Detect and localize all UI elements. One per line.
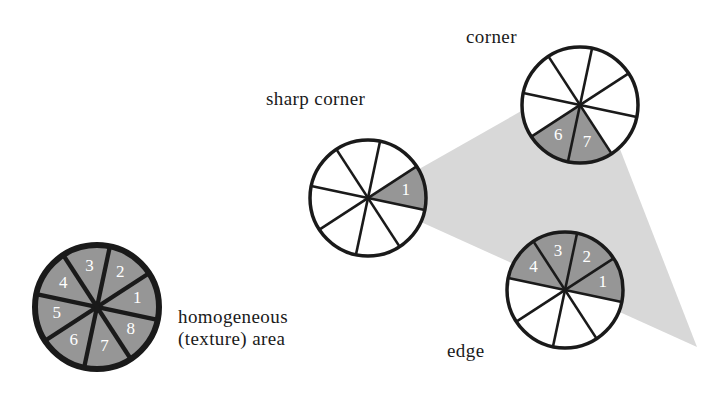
circle-corner: 67 (522, 47, 638, 163)
sector-number-1: 1 (133, 288, 142, 307)
sector-number-4: 4 (59, 273, 68, 292)
sector-number-2: 2 (116, 262, 125, 281)
circle-edge: 1234 (507, 232, 623, 348)
sector-number-4: 4 (529, 257, 538, 276)
sector-number-8: 8 (126, 319, 135, 338)
diagram-canvas: 123456781671234 (0, 0, 721, 399)
sector-number-6: 6 (70, 330, 79, 349)
label-homogeneous-texture-area: homogeneous(texture) area (178, 306, 288, 350)
sector-number-3: 3 (85, 256, 94, 275)
caption-line: (texture) area (178, 328, 288, 350)
circle-sharp-corner: 1 (310, 140, 426, 256)
sector-number-2: 2 (582, 247, 591, 266)
sector-number-6: 6 (554, 125, 563, 144)
sector-number-1: 1 (401, 180, 410, 199)
label-corner: corner (466, 26, 517, 48)
label-sharp-corner: sharp corner (266, 88, 365, 110)
sector-number-7: 7 (583, 132, 592, 151)
sector-number-1: 1 (598, 272, 607, 291)
sector-number-7: 7 (100, 336, 109, 355)
circle-homogeneous: 12345678 (35, 245, 159, 369)
sector-number-3: 3 (554, 241, 563, 260)
label-edge: edge (447, 340, 484, 362)
sector-number-5: 5 (53, 303, 62, 322)
caption-line: homogeneous (178, 306, 288, 328)
